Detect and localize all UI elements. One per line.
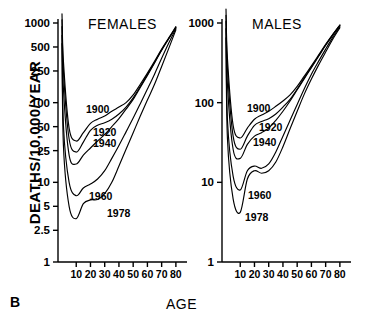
- y-tick-label: 5: [44, 200, 51, 212]
- x-tick-label: 40: [113, 268, 125, 280]
- curve-1900: [62, 14, 176, 141]
- curve-1920: [62, 20, 176, 152]
- y-tick-label: 1: [44, 256, 51, 268]
- y-tick-label: 100: [31, 97, 50, 109]
- curve-1940: [226, 21, 340, 159]
- figure-b: DEATHS/10,000/YEAR FEMALES MALES AGE B 1…: [0, 0, 376, 323]
- plot-canvas: 100050025010050251052.511020304050607080…: [0, 0, 376, 323]
- y-tick-label: 1000: [188, 17, 214, 29]
- curve-label-males-1920: 1920: [259, 121, 283, 133]
- y-tick-label: 250: [31, 65, 50, 77]
- x-tick-label: 10: [70, 268, 82, 280]
- y-tick-label: 50: [37, 121, 50, 133]
- y-tick-label: 500: [31, 41, 50, 53]
- y-tick-label: 10: [201, 176, 214, 188]
- x-tick-label: 60: [306, 268, 318, 280]
- curve-label-males-1978: 1978: [245, 211, 269, 223]
- y-tick-label: 1: [208, 256, 215, 268]
- x-tick-label: 10: [234, 268, 246, 280]
- y-tick-label: 2.5: [34, 224, 51, 236]
- x-tick-label: 70: [320, 268, 332, 280]
- x-tick-label: 20: [85, 268, 97, 280]
- y-tick-label: 1000: [24, 17, 50, 29]
- curve-label-males-1960: 1960: [248, 189, 272, 201]
- x-tick-label: 60: [142, 268, 154, 280]
- curve-label-females-1900: 1900: [86, 103, 110, 115]
- y-tick-label: 100: [195, 97, 214, 109]
- x-tick-label: 20: [249, 268, 261, 280]
- x-tick-label: 50: [127, 268, 139, 280]
- curve-label-females-1978: 1978: [107, 207, 131, 219]
- y-tick-label: 25: [37, 145, 50, 157]
- curve-1960: [226, 27, 340, 191]
- y-tick-label: 10: [37, 176, 50, 188]
- curve-1900: [226, 9, 340, 138]
- curve-1978: [62, 30, 176, 219]
- x-tick-label: 70: [156, 268, 168, 280]
- curve-label-males-1940: 1940: [253, 136, 277, 148]
- x-tick-label: 80: [170, 268, 182, 280]
- curve-1920: [226, 15, 340, 149]
- x-tick-label: 40: [277, 268, 289, 280]
- x-tick-label: 80: [334, 268, 346, 280]
- x-tick-label: 50: [291, 268, 303, 280]
- curve-label-females-1940: 1940: [93, 137, 117, 149]
- curve-1940: [62, 27, 176, 165]
- x-tick-label: 30: [99, 268, 111, 280]
- curve-label-females-1960: 1960: [89, 190, 113, 202]
- x-tick-label: 30: [263, 268, 275, 280]
- curve-label-males-1900: 1900: [247, 102, 271, 114]
